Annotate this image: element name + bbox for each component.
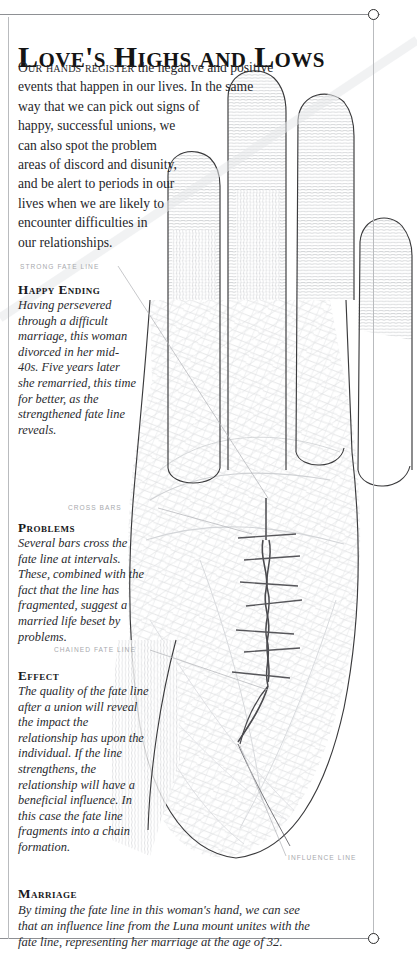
note-effect: Effect The quality of the fate line afte…	[18, 668, 150, 856]
intro-line-7: and be alert to periods in our	[18, 174, 223, 193]
intro-line-5: can also spot the problem	[18, 136, 223, 155]
note-heading: Marriage	[18, 886, 338, 901]
note-body: Several bars cross the fate line at inte…	[18, 536, 146, 645]
intro-paragraph: Our hands register the negative and posi…	[18, 58, 338, 252]
callout-cross-bars: Cross bars	[68, 504, 122, 511]
intro-line-10: our relationships.	[18, 233, 223, 252]
note-problems: Problems Several bars cross the fate lin…	[18, 520, 146, 645]
top-rule	[0, 14, 380, 15]
intro-line-4: happy, successful unions, we	[18, 116, 223, 135]
circle-icon	[368, 9, 379, 20]
right-rule	[373, 17, 374, 939]
note-body: Having persevered through a difficult ma…	[18, 298, 138, 438]
note-heading: Happy Ending	[18, 282, 138, 297]
note-body: The quality of the fate line after a uni…	[18, 684, 150, 856]
intro-line-9: encounter difficulties in	[18, 213, 223, 232]
callout-strong-fate-line: Strong fate line	[20, 263, 99, 270]
intro-lead-in: Our hands register	[18, 60, 134, 75]
left-rule	[8, 17, 9, 939]
intro-line-1: the negative and positive	[134, 60, 273, 75]
intro-line-2: events that happen in our lives. In the …	[18, 77, 318, 96]
callout-chained-fate-line: Chained fate line	[54, 646, 136, 653]
note-heading: Effect	[18, 668, 150, 683]
note-happy-ending: Happy Ending Having persevered through a…	[18, 282, 138, 438]
intro-line-3: way that we can pick out signs of	[18, 97, 233, 116]
note-body: By timing the fate line in this woman's …	[18, 903, 318, 950]
callout-influence-line: Influence line	[288, 854, 357, 861]
note-marriage: Marriage By timing the fate line in this…	[18, 886, 338, 950]
circle-icon	[368, 933, 379, 944]
intro-line-6: areas of discord and disunity,	[18, 155, 223, 174]
note-heading: Problems	[18, 520, 146, 535]
palmistry-page: Love's Highs and Lows Our hands register…	[0, 0, 417, 970]
intro-line-8: lives when we are likely to	[18, 194, 223, 213]
